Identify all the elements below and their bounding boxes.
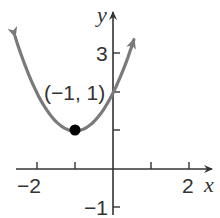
- y-tick-label-neg1: −1: [84, 196, 108, 218]
- vertex-point: [70, 125, 81, 136]
- y-tick-label-3: 3: [96, 42, 108, 65]
- x-tick-label-neg2: −2: [17, 174, 41, 197]
- y-axis-label: y: [95, 2, 107, 27]
- parabola-graph: y x −2 2 3 −1 (−1, 1): [0, 0, 220, 218]
- parabola-curve: [0, 0, 42, 40]
- vertex-label: (−1, 1): [44, 81, 105, 104]
- x-axis-label: x: [203, 172, 214, 197]
- x-tick-label-2: 2: [182, 174, 194, 197]
